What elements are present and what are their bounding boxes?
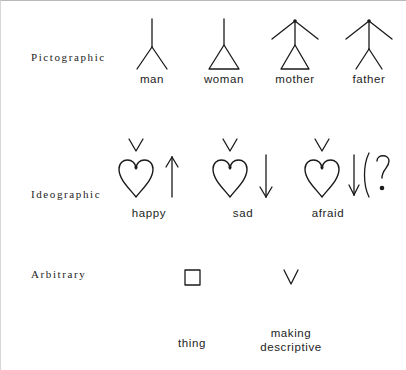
- glyph-caption-mother: mother: [259, 73, 331, 85]
- row-label-arbitrary: Arbitrary: [31, 268, 86, 280]
- glyph-caption-man: man: [121, 73, 183, 85]
- glyph-caption-happy: happy: [107, 207, 191, 219]
- glyph-cell-mother: mother: [259, 17, 331, 89]
- sad-icon: [201, 135, 285, 209]
- glyph-caption-afraid: afraid: [293, 207, 363, 219]
- man-icon: [121, 17, 183, 73]
- happy-icon: [107, 135, 191, 209]
- mother-icon: [259, 17, 331, 73]
- glyph-caption-woman: woman: [193, 73, 255, 85]
- glyph-cell-father: father: [333, 17, 405, 89]
- row-label-pictographic: Pictographic: [31, 51, 106, 63]
- glyph-cell-afraid: afraid: [293, 135, 397, 223]
- glyph-cell-woman: woman: [193, 17, 255, 89]
- glyph-cell-man: man: [121, 17, 183, 89]
- row-label-ideographic: Ideographic: [31, 188, 101, 200]
- glyph-caption-thing: thing: [161, 337, 223, 349]
- figure-frame: Pictographic man woman mother: [0, 0, 406, 370]
- glyph-cell-happy: happy: [107, 135, 191, 223]
- vee-icon: [243, 265, 339, 291]
- glyph-cell-sad: sad: [201, 135, 285, 223]
- glyph-caption-sad: sad: [201, 207, 285, 219]
- glyph-caption-making: making: [243, 327, 339, 339]
- glyph-cell-thing: thing: [161, 265, 223, 361]
- father-icon: [333, 17, 405, 73]
- woman-icon: [193, 17, 255, 73]
- glyph-caption-descriptive: descriptive: [243, 341, 339, 353]
- glyph-cell-making-descriptive: making descriptive: [243, 265, 339, 361]
- square-icon: [161, 265, 223, 291]
- afraid-icon: [293, 135, 397, 209]
- glyph-caption-father: father: [333, 73, 405, 85]
